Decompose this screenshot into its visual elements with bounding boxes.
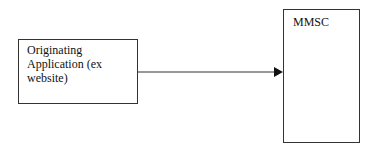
arrowhead-icon — [274, 67, 283, 77]
arrow-connector — [0, 0, 377, 159]
